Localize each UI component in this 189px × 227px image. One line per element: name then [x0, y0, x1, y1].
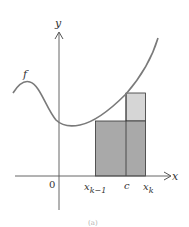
rect-min-height — [96, 121, 146, 176]
origin-label: 0 — [49, 179, 55, 190]
tick-label-x-k-minus-1: xk−1 — [84, 181, 106, 195]
rect-at-c — [126, 93, 146, 121]
tick-label-x-k: xk — [143, 181, 154, 195]
tick-label-c: c — [124, 180, 130, 191]
function-label: f — [22, 68, 29, 81]
x-axis-label: x — [172, 170, 179, 183]
riemann-diagram: f y x 0 xk−1 c xk (a) — [0, 0, 189, 227]
y-axis-label: y — [54, 17, 62, 30]
caption: (a) — [88, 219, 98, 227]
